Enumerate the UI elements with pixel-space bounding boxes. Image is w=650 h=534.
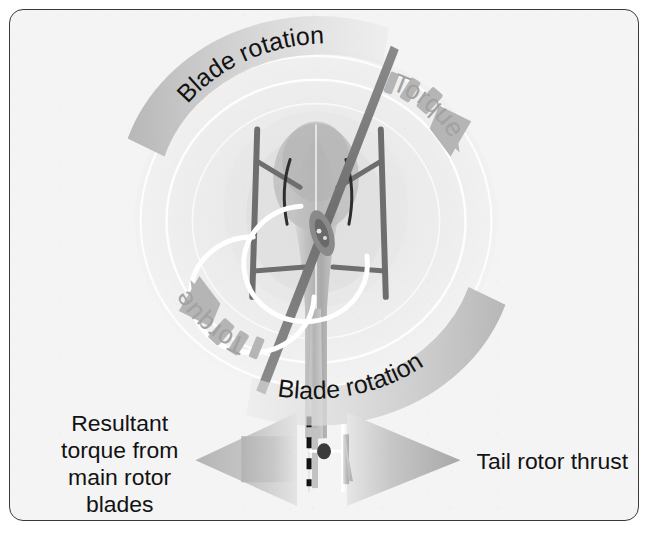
- svg-text:torque from: torque from: [61, 437, 178, 463]
- diagram-frame: Blade rotation Blade rotation Torque Tor…: [9, 9, 639, 521]
- tail-rotor-thrust-label: Tail rotor thrust: [477, 448, 629, 474]
- tail-rotor-thrust-arrow: [343, 412, 461, 506]
- resultant-torque-arrow: [195, 412, 297, 506]
- helicopter-torque-illustration: Blade rotation Blade rotation Torque Tor…: [10, 10, 638, 520]
- svg-text:blades: blades: [86, 491, 154, 517]
- svg-text:Resultant: Resultant: [71, 410, 168, 436]
- diagram-canvas: Blade rotation Blade rotation Torque Tor…: [0, 0, 650, 534]
- resultant-torque-label: Resultant torque from main rotor blades: [61, 410, 178, 517]
- svg-text:main rotor: main rotor: [68, 464, 172, 490]
